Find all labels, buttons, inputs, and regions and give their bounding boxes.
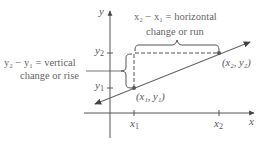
run-brace bbox=[135, 40, 219, 51]
run-annotation-line1: x₂ − x₁ = horizontal bbox=[134, 11, 217, 22]
rise-annotation-line2: change or rise bbox=[20, 70, 79, 81]
slope-line bbox=[95, 42, 250, 104]
slope-diagram: y x x1 x2 y1 y2 (x₁, y₁) (x₂, y₂) x₂ − x… bbox=[0, 0, 270, 145]
point-1 bbox=[132, 86, 136, 90]
x2-tick-label: x2 bbox=[213, 117, 223, 131]
rise-annotation-line1: y₂ − y₁ = vertical bbox=[4, 57, 76, 68]
run-annotation-line2: change or run bbox=[146, 26, 204, 37]
point-1-label: (x₁, y₁) bbox=[136, 91, 165, 103]
point-2 bbox=[217, 51, 221, 55]
point-2-label: (x₂, y₂) bbox=[222, 57, 251, 69]
x1-tick-label: x1 bbox=[129, 117, 139, 131]
x-axis-label: x bbox=[248, 115, 254, 127]
y-axis-label: y bbox=[98, 5, 104, 17]
y2-tick-label: y2 bbox=[94, 44, 104, 58]
y1-tick-label: y1 bbox=[94, 79, 104, 93]
rise-brace bbox=[121, 54, 132, 88]
